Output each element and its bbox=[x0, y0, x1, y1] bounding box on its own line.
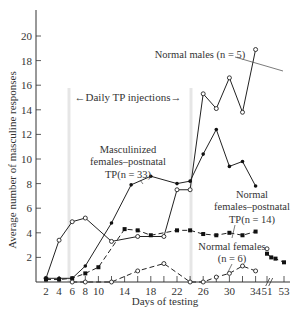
data-point bbox=[254, 230, 258, 234]
data-point bbox=[136, 269, 140, 273]
nf-label-2: (n = 6) bbox=[218, 253, 247, 265]
data-point bbox=[110, 239, 114, 243]
data-point bbox=[57, 278, 61, 282]
y-tick-label: 4 bbox=[27, 227, 33, 239]
data-point bbox=[83, 271, 87, 275]
data-point bbox=[201, 92, 205, 96]
data-point bbox=[227, 76, 231, 80]
data-point bbox=[282, 260, 286, 264]
nf-tp-label-3: TP(n = 14) bbox=[229, 214, 276, 226]
data-point bbox=[123, 227, 127, 231]
data-point bbox=[227, 231, 231, 235]
data-point bbox=[136, 228, 140, 232]
y-tick-label: 6 bbox=[27, 202, 33, 214]
masc-label-2: females–postnatal bbox=[90, 156, 166, 167]
data-point bbox=[265, 252, 269, 256]
data-point bbox=[136, 234, 140, 238]
data-point bbox=[70, 220, 74, 224]
data-point bbox=[84, 264, 88, 268]
data-point bbox=[214, 275, 218, 279]
data-point bbox=[241, 160, 245, 164]
data-point bbox=[214, 107, 218, 111]
x-tick-label: 51 bbox=[262, 285, 273, 297]
nf-tp-leader bbox=[232, 225, 235, 238]
data-point bbox=[149, 233, 153, 237]
data-point bbox=[188, 280, 192, 284]
data-point bbox=[188, 228, 192, 232]
data-point bbox=[83, 280, 87, 284]
x-tick-label: 26 bbox=[198, 285, 210, 297]
data-point bbox=[110, 280, 114, 284]
data-point bbox=[254, 48, 258, 52]
data-point bbox=[44, 278, 48, 282]
nf-label-1: Normal females bbox=[198, 241, 265, 252]
data-point bbox=[241, 233, 245, 237]
data-point bbox=[57, 238, 61, 242]
data-point bbox=[274, 257, 278, 261]
data-point bbox=[162, 234, 166, 238]
data-point bbox=[175, 182, 179, 186]
data-point bbox=[188, 179, 192, 183]
nf-tp-label-1: Normal bbox=[236, 189, 268, 200]
data-point bbox=[201, 152, 205, 156]
x-tick-label: 6 bbox=[69, 285, 75, 297]
data-point bbox=[254, 269, 258, 273]
data-point bbox=[241, 264, 245, 268]
masc-label-1: Masculinized bbox=[100, 144, 157, 155]
data-point bbox=[201, 280, 205, 284]
data-point bbox=[269, 255, 273, 259]
y-tick-label: 18 bbox=[21, 55, 33, 67]
injection-annotation: ←Daily TP injections→ bbox=[75, 91, 182, 103]
data-point bbox=[188, 188, 192, 192]
x-tick-label: 53 bbox=[279, 285, 291, 297]
y-tick-label: 8 bbox=[27, 178, 33, 190]
y-axis-label: Average number of masculine responses bbox=[6, 71, 18, 249]
data-point bbox=[215, 128, 219, 132]
line-chart: 24681012141618202468101418222630345153 A… bbox=[0, 0, 297, 321]
y-tick-label: 16 bbox=[21, 79, 33, 91]
x-tick-label: 14 bbox=[119, 285, 131, 297]
data-point bbox=[175, 228, 179, 232]
nf-leader bbox=[228, 264, 232, 272]
data-point bbox=[175, 188, 179, 192]
x-axis-label: Days of testing bbox=[132, 295, 199, 307]
data-point bbox=[241, 110, 245, 114]
y-tick-label: 14 bbox=[21, 104, 33, 116]
data-point bbox=[70, 280, 74, 284]
normal-males-label: Normal males (n = 5) bbox=[155, 49, 246, 61]
x-tick-label: 2 bbox=[43, 285, 49, 297]
y-tick-label: 12 bbox=[21, 128, 32, 140]
data-point bbox=[254, 184, 258, 188]
x-tick-label: 10 bbox=[93, 285, 105, 297]
data-point bbox=[83, 216, 87, 220]
y-tick-label: 20 bbox=[21, 30, 33, 42]
masc-label-3: TP(n = 33) bbox=[105, 169, 152, 181]
y-tick-label: 10 bbox=[21, 153, 33, 165]
data-point bbox=[110, 221, 114, 225]
data-point bbox=[162, 262, 166, 266]
nf-tp-label-2: females–postnatal bbox=[214, 201, 290, 212]
data-point bbox=[228, 165, 232, 169]
data-point bbox=[201, 232, 205, 236]
y-tick-label: 2 bbox=[27, 251, 33, 263]
data-point bbox=[214, 233, 218, 237]
normal-males-leader bbox=[235, 57, 283, 71]
x-tick-label: 8 bbox=[83, 285, 89, 297]
data-point bbox=[129, 183, 133, 187]
data-point bbox=[96, 265, 100, 269]
x-tick-label: 30 bbox=[224, 285, 236, 297]
x-tick-label: 34 bbox=[250, 285, 262, 297]
x-tick-label: 4 bbox=[56, 285, 62, 297]
